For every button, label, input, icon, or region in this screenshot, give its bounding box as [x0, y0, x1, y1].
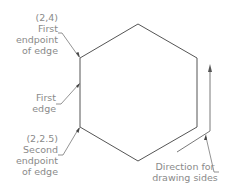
label-second-endpoint: (2,2.5) Second endpoint of edge [8, 133, 58, 177]
leader-first-edge [56, 84, 79, 104]
label-direction: Direction for drawing sides [150, 161, 220, 183]
direction-arrowhead-icon [208, 64, 212, 72]
hexagon-shape [80, 24, 197, 161]
label-first-endpoint: (2,4) First endpoint of edge [12, 12, 58, 56]
leader-second-endpoint [58, 128, 79, 155]
leader-arrowhead-icon [76, 52, 80, 58]
leader-first-endpoint [58, 33, 79, 57]
direction-arrow-tail [177, 131, 210, 152]
coord-second-endpoint: (2,2.5) [8, 133, 58, 144]
coord-first-endpoint: (2,4) [12, 12, 58, 23]
label-first-edge: First edge [20, 92, 56, 114]
